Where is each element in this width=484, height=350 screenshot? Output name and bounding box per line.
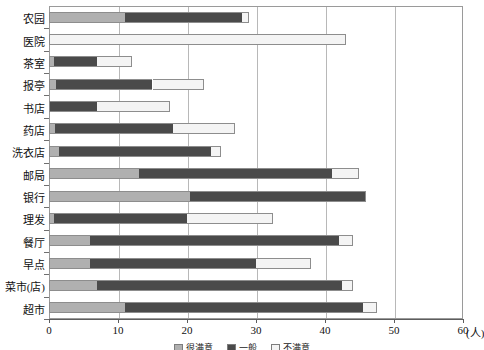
category-label-9: 银行 (0, 189, 45, 205)
y-tick-1 (44, 28, 49, 29)
category-label-5: 书店 (0, 100, 45, 116)
y-tick-12 (44, 274, 49, 275)
bar-segment (55, 123, 174, 134)
y-tick-3 (44, 73, 49, 74)
gridline-10 (119, 7, 120, 318)
x-tick-0 (49, 319, 50, 323)
bar-row (49, 12, 463, 23)
bar-segment (332, 168, 360, 179)
y-tick-7 (44, 163, 49, 164)
bar-segment (363, 302, 377, 313)
bar-segment (90, 235, 338, 246)
bar-row (49, 56, 463, 67)
bar-row (49, 101, 463, 112)
bar-segment (256, 258, 311, 269)
x-tick-label-50: 50 (389, 324, 400, 336)
category-label-2: 医院 (0, 33, 45, 49)
plot-area (49, 6, 463, 319)
bar-segment (342, 280, 352, 291)
x-tick-label-30: 30 (251, 324, 262, 336)
y-tick-6 (44, 140, 49, 141)
legend-item: 一般 (227, 341, 257, 350)
bar-segment (56, 79, 153, 90)
y-tick-2 (44, 51, 49, 52)
bar-segment (125, 302, 363, 313)
bar-segment (49, 280, 97, 291)
category-label-6: 药店 (0, 122, 45, 138)
bar-segment (54, 56, 97, 67)
bar-segment (59, 146, 211, 157)
x-tick-30 (256, 319, 257, 323)
y-tick-13 (44, 297, 49, 298)
x-tick-10 (118, 319, 119, 323)
bar-segment (97, 56, 132, 67)
y-tick-8 (44, 185, 49, 186)
legend-swatch (271, 344, 280, 350)
bar-row (49, 123, 463, 134)
bar-segment (49, 146, 59, 157)
y-tick-4 (44, 95, 49, 96)
bar-row (49, 79, 463, 90)
category-label-14: 超市 (0, 301, 45, 317)
y-tick-11 (44, 252, 49, 253)
bar-row (49, 258, 463, 269)
chart-legend: 很满意一般不满意 (0, 341, 483, 350)
legend-label: 很满意 (186, 341, 213, 350)
bar-segment (97, 280, 342, 291)
bar-segment (49, 168, 139, 179)
x-tick-label-10: 10 (113, 324, 124, 336)
category-label-4: 报亭 (0, 77, 45, 93)
bar-segment (49, 302, 125, 313)
x-tick-40 (325, 319, 326, 323)
bar-row (49, 191, 463, 202)
bar-row (49, 34, 463, 45)
bar-segment (49, 258, 90, 269)
legend-label: 一般 (239, 341, 257, 350)
gridline-40 (326, 7, 327, 318)
bar-segment (211, 146, 221, 157)
category-label-12: 早点 (0, 256, 45, 272)
x-tick-60 (463, 319, 464, 323)
bar-segment (242, 12, 249, 23)
bar-segment (125, 12, 242, 23)
bar-segment (339, 235, 353, 246)
bar-segment (49, 34, 346, 45)
gridline-50 (395, 7, 396, 318)
category-label-7: 洗衣店 (0, 144, 45, 160)
bar-segment (49, 235, 90, 246)
bar-segment (49, 101, 97, 112)
category-label-1: 农园 (0, 10, 45, 26)
category-label-13: 菜市(店) (0, 278, 45, 294)
bar-row (49, 213, 463, 224)
bar-row (49, 146, 463, 157)
bar-segment (49, 191, 190, 202)
bar-segment (190, 191, 366, 202)
x-tick-20 (187, 319, 188, 323)
y-tick-5 (44, 118, 49, 119)
bar-segment (97, 101, 169, 112)
x-axis-unit-label: (人) (466, 324, 484, 340)
bar-segment (49, 79, 56, 90)
x-tick-label-20: 20 (182, 324, 193, 336)
x-tick-50 (394, 319, 395, 323)
bar-row (49, 302, 463, 313)
bar-segment (139, 168, 332, 179)
bar-segment (49, 12, 125, 23)
bar-row (49, 168, 463, 179)
bar-row (49, 280, 463, 291)
bar-segment (54, 213, 187, 224)
gridline-20 (188, 7, 189, 318)
category-label-8: 邮局 (0, 167, 45, 183)
bar-segment (187, 213, 273, 224)
gridline-30 (257, 7, 258, 318)
bar-segment (90, 258, 256, 269)
x-tick-label-0: 0 (46, 324, 52, 336)
y-tick-10 (44, 230, 49, 231)
y-tick-9 (44, 207, 49, 208)
legend-swatch (174, 344, 183, 350)
bar-segment (153, 79, 205, 90)
x-tick-label-40: 40 (320, 324, 331, 336)
category-label-10: 理发 (0, 211, 45, 227)
bar-segment (173, 123, 235, 134)
